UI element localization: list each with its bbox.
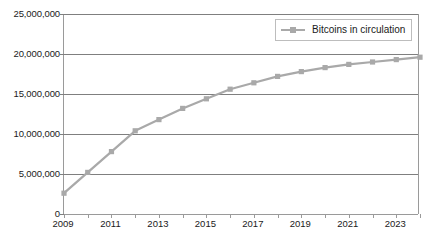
- x-axis-tick: [183, 214, 184, 218]
- data-point-marker: [85, 170, 90, 175]
- x-axis-tick: [159, 214, 160, 218]
- y-axis-tick-label: 10,000,000: [0, 129, 60, 139]
- y-axis-tick-label: 15,000,000: [0, 89, 60, 99]
- bitcoins-in-circulation-chart: 05,000,00010,000,00015,000,00020,000,000…: [0, 0, 429, 241]
- x-axis-tick-label: 2017: [230, 219, 276, 229]
- data-point-marker: [299, 69, 304, 74]
- y-axis-tick-label: 25,000,000: [0, 9, 60, 19]
- gridline: [64, 214, 418, 215]
- x-axis-tick-label: 2011: [87, 219, 133, 229]
- x-axis-tick-label: 2021: [325, 219, 371, 229]
- x-axis-tick-label: 2013: [135, 219, 181, 229]
- x-axis-tick: [373, 214, 374, 218]
- series-line: [64, 57, 420, 193]
- data-point-marker: [180, 106, 185, 111]
- x-axis-tick-label: 2023: [372, 219, 418, 229]
- data-point-marker: [251, 80, 256, 85]
- x-axis-tick: [349, 214, 350, 218]
- x-axis-tick: [254, 214, 255, 218]
- y-axis-tick-label: 20,000,000: [0, 49, 60, 59]
- data-point-marker: [228, 87, 233, 92]
- data-point-marker: [322, 65, 327, 70]
- plot-area: [63, 14, 419, 214]
- data-point-marker: [61, 191, 66, 196]
- data-point-marker: [275, 74, 280, 79]
- data-point-marker: [370, 59, 375, 64]
- y-axis-tick-label: 0: [0, 209, 60, 219]
- data-point-marker: [133, 128, 138, 133]
- x-axis-tick: [301, 214, 302, 218]
- y-axis-tick-label: 5,000,000: [0, 169, 60, 179]
- x-axis-tick: [396, 214, 397, 218]
- x-axis-tick: [135, 214, 136, 218]
- x-axis-tick: [88, 214, 89, 218]
- x-axis-tick-label: 2019: [277, 219, 323, 229]
- x-axis-tick-label: 2009: [40, 219, 86, 229]
- data-point-marker: [346, 62, 351, 67]
- chart-legend: Bitcoins in circulation: [275, 19, 412, 41]
- x-axis-tick-label: 2015: [182, 219, 228, 229]
- x-axis-tick: [64, 214, 65, 218]
- data-point-marker: [417, 55, 422, 60]
- data-point-marker: [109, 149, 114, 154]
- data-point-marker: [156, 117, 161, 122]
- legend-item-label: Bitcoins in circulation: [312, 25, 405, 35]
- x-axis-tick: [420, 214, 421, 218]
- x-axis-tick: [278, 214, 279, 218]
- x-axis-tick: [111, 214, 112, 218]
- data-point-marker: [204, 96, 209, 101]
- series-bitcoins-in-circulation: [64, 14, 418, 214]
- x-axis-tick: [230, 214, 231, 218]
- x-axis-tick: [206, 214, 207, 218]
- legend-swatch-icon: [281, 24, 305, 36]
- data-point-marker: [394, 57, 399, 62]
- series-markers: [61, 55, 422, 196]
- x-axis-tick: [325, 214, 326, 218]
